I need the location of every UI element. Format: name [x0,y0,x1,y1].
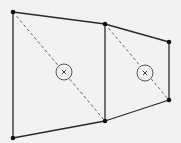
node-bottom-left [11,136,16,141]
node-top-right [167,40,172,45]
edge-n5-n6 [13,121,105,138]
node-bottom-right [167,98,172,103]
node-top-left [11,10,16,15]
node-bottom-middle [103,119,108,124]
mesh-diagram [0,0,181,143]
edge-n2-n3 [105,24,169,42]
node-top-middle [103,22,108,27]
edge-n1-n2 [13,12,105,24]
edge-n4-n5 [105,100,169,121]
diagonal-e2 [105,24,169,100]
